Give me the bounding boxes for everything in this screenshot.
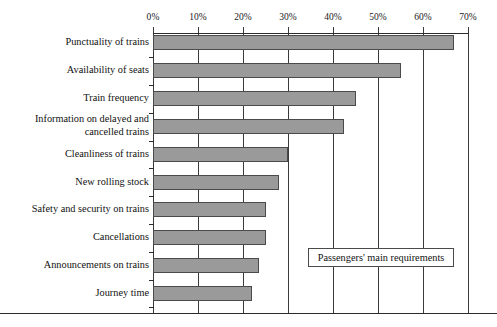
y-tick-2 xyxy=(149,85,154,86)
y-tick-10 xyxy=(149,307,154,308)
gridline-60 xyxy=(423,27,424,313)
x-tick-label-5: 50% xyxy=(369,12,387,23)
category-label-announcements-on-trains: Announcements on trains xyxy=(0,259,149,272)
category-label-punctuality-of-trains: Punctuality of trains xyxy=(0,36,149,49)
bar-safety-and-security-on-trains xyxy=(153,202,266,217)
category-label-new-rolling-stock: New rolling stock xyxy=(0,176,149,189)
y-tick-6 xyxy=(149,196,154,197)
chart-bottom-border xyxy=(0,313,497,314)
category-label-safety-and-security-on-trains: Safety and security on trains xyxy=(0,203,149,216)
y-tick-1 xyxy=(149,57,154,58)
bar-train-frequency xyxy=(153,91,356,106)
x-tick-label-7: 70% xyxy=(459,12,477,23)
bar-announcements-on-trains xyxy=(153,258,259,273)
y-tick-8 xyxy=(149,252,154,253)
legend-label: Passengers' main requirements xyxy=(318,252,445,264)
x-tick-label-3: 30% xyxy=(279,12,297,23)
x-axis-line xyxy=(153,33,469,34)
bar-new-rolling-stock xyxy=(153,175,279,190)
x-tick-label-2: 20% xyxy=(234,12,252,23)
y-tick-9 xyxy=(149,280,154,281)
y-tick-7 xyxy=(149,224,154,225)
category-label-cancellations: Cancellations xyxy=(0,231,149,244)
bar-journey-time xyxy=(153,286,252,301)
y-tick-4 xyxy=(149,141,154,142)
y-tick-3 xyxy=(149,113,154,114)
bar-cleanliness-of-trains xyxy=(153,147,288,162)
category-label-cleanliness-of-trains: Cleanliness of trains xyxy=(0,148,149,161)
x-tick-label-1: 10% xyxy=(189,12,207,23)
category-label-information-on-delayed-and-cancelled-trains: Information on delayed and cancelled tra… xyxy=(0,113,149,138)
bar-availability-of-seats xyxy=(153,63,401,78)
category-label-train-frequency: Train frequency xyxy=(0,92,149,105)
bar-chart: 0% 10% 20% 30% 40% 50% 60% 70% Punctuali… xyxy=(0,0,497,327)
bar-information-on-delayed-and-cancelled-trains xyxy=(153,119,344,134)
legend: Passengers' main requirements xyxy=(308,248,454,267)
x-tick-label-4: 40% xyxy=(324,12,342,23)
bar-punctuality-of-trains xyxy=(153,35,454,50)
x-tick-label-6: 60% xyxy=(414,12,432,23)
y-tick-5 xyxy=(149,168,154,169)
x-tick-label-0: 0% xyxy=(147,12,160,23)
category-label-journey-time: Journey time xyxy=(0,287,149,300)
gridline-70 xyxy=(468,27,469,313)
bar-cancellations xyxy=(153,230,266,245)
category-label-availability-of-seats: Availability of seats xyxy=(0,64,149,77)
